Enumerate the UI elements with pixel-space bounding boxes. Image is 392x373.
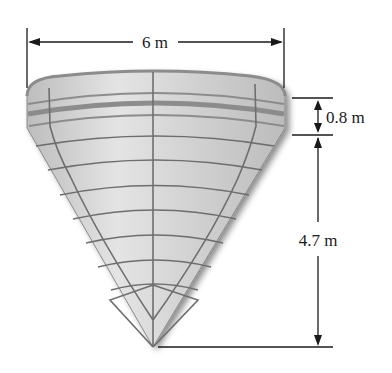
tank-body xyxy=(27,71,285,347)
cone-height-label: 4.7 m xyxy=(299,231,338,250)
cylinder-height-label: 0.8 m xyxy=(326,108,365,127)
diameter-label: 6 m xyxy=(142,33,168,52)
tank-surface xyxy=(27,71,285,347)
cone-tank-diagram: 6 m 0.8 m 4.7 m xyxy=(0,0,392,373)
